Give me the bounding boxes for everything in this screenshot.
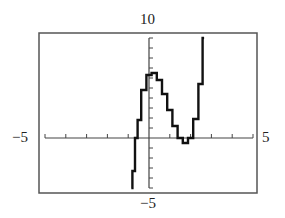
plot-area <box>0 0 285 218</box>
viewing-window-frame <box>39 33 257 193</box>
xmin-label: −5 <box>12 130 28 145</box>
graph-screen: 10 −5 −5 5 <box>0 0 285 218</box>
function-curve <box>131 38 204 188</box>
axes <box>45 38 253 188</box>
xmax-label: 5 <box>262 130 270 145</box>
ymax-label: 10 <box>140 12 155 27</box>
ymin-label: −5 <box>140 196 156 211</box>
